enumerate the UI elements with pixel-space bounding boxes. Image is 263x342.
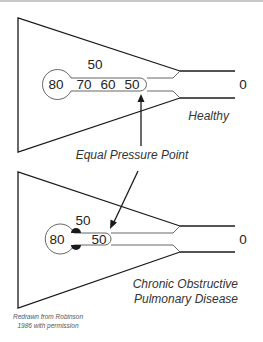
arrow-down-line xyxy=(114,171,138,222)
healthy-airway: 50 80 70 60 50 0 Healthy xyxy=(18,18,247,152)
healthy-label: Healthy xyxy=(188,109,230,123)
copd-pleural-pressure: 50 xyxy=(75,213,90,228)
arrow-down-head-icon xyxy=(110,220,117,230)
healthy-alveolar-pressure: 80 xyxy=(48,77,63,92)
equal-pressure-point-diagram: 50 80 70 60 50 0 Healthy Equal Pressure … xyxy=(0,0,263,342)
healthy-pleural-pressure: 50 xyxy=(87,57,102,72)
copd-collapse-bottom-icon xyxy=(71,245,81,250)
healthy-airway-pressure-3: 50 xyxy=(124,77,139,92)
copd-label-line2: Pulmonary Disease xyxy=(134,292,238,306)
healthy-mouth-pressure: 0 xyxy=(239,77,247,92)
copd-airway-pressure: 50 xyxy=(91,232,106,247)
healthy-airway-walls-outer xyxy=(147,71,180,98)
equal-pressure-point-label: Equal Pressure Point xyxy=(76,148,189,162)
copd-alveolar-pressure: 80 xyxy=(49,232,64,247)
copd-airway: 50 80 50 0 Chronic Obstructive Pulmonary… xyxy=(18,172,247,308)
credit-line1: Redrawn from Robinson xyxy=(13,313,83,320)
copd-collapse-top-icon xyxy=(71,228,81,233)
copd-airway-walls-outer xyxy=(111,226,180,252)
copd-mouth-pressure: 0 xyxy=(239,232,247,247)
credit-line2: 1986 with permission xyxy=(17,322,78,330)
healthy-airway-pressure-2: 60 xyxy=(100,77,115,92)
healthy-airway-pressure-1: 70 xyxy=(76,77,91,92)
arrow-up-head-icon xyxy=(138,94,145,102)
copd-label-line1: Chronic Obstructive xyxy=(133,277,239,291)
